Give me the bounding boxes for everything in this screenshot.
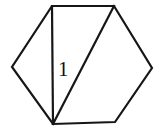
figure-canvas (0, 0, 160, 130)
vertical-chord (52, 6, 53, 124)
region-label-1: 1 (58, 59, 69, 80)
figure-background (0, 0, 160, 130)
geometry-figure: 1 (0, 0, 160, 130)
